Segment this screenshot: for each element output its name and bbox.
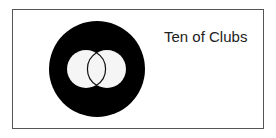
venn-symbol-icon <box>0 0 276 138</box>
card-label: Ten of Clubs <box>164 28 247 45</box>
right-white-circle <box>88 50 126 88</box>
